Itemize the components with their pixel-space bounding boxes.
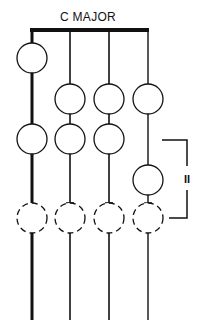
- note-s3-r2: [94, 84, 124, 114]
- note-s4-r4: [133, 165, 163, 195]
- nut-bar: [30, 28, 149, 32]
- note-s4-r2: [133, 84, 163, 114]
- note-s1-r1: [17, 43, 47, 73]
- note-s2-r2: [55, 84, 85, 114]
- solid-notes: [17, 43, 163, 195]
- dashed-note-s2: [55, 203, 85, 233]
- note-s2-r3: [55, 124, 85, 154]
- chord-title: C MAJOR: [60, 10, 116, 24]
- dashed-notes: [17, 203, 163, 233]
- note-s3-r3: [94, 124, 124, 154]
- dashed-note-s1: [17, 203, 47, 233]
- chord-diagram: C MAJOR: [0, 0, 205, 330]
- bracket-label: II: [184, 173, 190, 185]
- string-2: [66, 32, 74, 320]
- note-s1-r3: [17, 124, 47, 154]
- dashed-note-s4: [133, 203, 163, 233]
- string-3: [105, 32, 113, 320]
- dashed-note-s3: [94, 203, 124, 233]
